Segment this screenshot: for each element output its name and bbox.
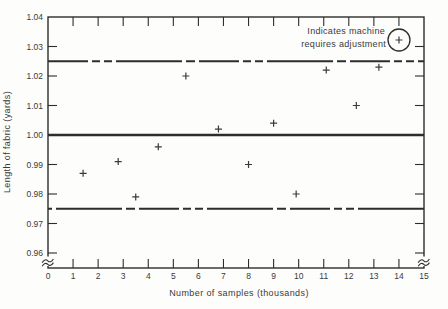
x-tick-label: 10 (294, 271, 304, 281)
data-point-plus-marker (375, 64, 382, 71)
data-point-plus-marker (215, 126, 222, 133)
x-tick-label: 15 (419, 271, 429, 281)
legend: Indicates machine requires adjustment (301, 26, 410, 51)
x-tick-label: 9 (271, 271, 276, 281)
data-point-plus-marker (182, 73, 189, 80)
legend-plus-marker (396, 37, 403, 44)
x-tick-label: 5 (171, 271, 176, 281)
data-point-plus-marker (270, 120, 277, 127)
x-tick-label: 8 (246, 271, 251, 281)
data-point-plus-marker (132, 193, 139, 200)
control-chart: 01234567891011121314150.960.970.980.991.… (0, 0, 448, 309)
data-point-plus-marker (115, 158, 122, 165)
data-point-plus-marker (323, 67, 330, 74)
x-tick-label: 11 (319, 271, 328, 281)
x-tick-label: 4 (146, 271, 151, 281)
y-tick-label: 1.03 (26, 42, 43, 52)
plot-frame (48, 17, 424, 268)
y-tick-label: 0.98 (26, 189, 43, 199)
data-point-plus-marker (353, 102, 360, 109)
data-point-plus-marker (80, 170, 87, 177)
data-point-plus-marker (155, 143, 162, 150)
y-tick-label: 1.00 (26, 130, 43, 140)
y-tick-label: 1.01 (26, 101, 43, 111)
x-tick-label: 0 (46, 271, 51, 281)
y-tick-label: 1.02 (26, 71, 43, 81)
x-tick-label: 2 (96, 271, 101, 281)
data-point-plus-marker (245, 161, 252, 168)
y-tick-label: 1.04 (26, 12, 43, 22)
legend-text-line1: Indicates machine (307, 26, 385, 36)
x-tick-label: 6 (196, 271, 201, 281)
x-tick-label: 1 (71, 271, 76, 281)
plot-area: 01234567891011121314150.960.970.980.991.… (26, 12, 429, 281)
x-tick-label: 12 (344, 271, 354, 281)
x-tick-label: 3 (121, 271, 126, 281)
x-tick-label: 13 (369, 271, 379, 281)
x-axis-title: Number of samples (thousands) (169, 288, 309, 298)
y-axis-title: Length of fabric (yards) (2, 91, 12, 193)
data-point-plus-marker (293, 191, 300, 198)
legend-text-line2: requires adjustment (301, 39, 386, 49)
y-tick-label: 0.99 (26, 160, 43, 170)
y-tick-label: 0.97 (26, 219, 43, 229)
x-tick-label: 14 (394, 271, 404, 281)
x-tick-label: 7 (221, 271, 226, 281)
y-tick-label: 0.96 (26, 248, 43, 258)
figure-page: 01234567891011121314150.960.970.980.991.… (0, 0, 448, 309)
